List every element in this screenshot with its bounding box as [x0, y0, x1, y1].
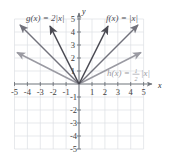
x-tick-label: -3 [37, 87, 44, 97]
x-axis-label: x [157, 81, 162, 90]
y-tick-label: 3 [71, 40, 75, 50]
function-label-h-prefix: h(x) = [107, 68, 130, 78]
y-tick-label: -4 [70, 131, 78, 141]
y-tick-label: -2 [70, 105, 77, 115]
curve-h-left-ray [17, 53, 79, 85]
y-tick-label: -5 [70, 144, 77, 154]
y-tick-label: -1 [70, 92, 77, 102]
h-fraction-denominator: 2 [135, 76, 138, 82]
function-label-f: f(x) = |x| [106, 13, 138, 23]
y-axis-label: y [81, 7, 86, 16]
y-tick-label: -3 [70, 118, 77, 128]
x-tick-label: -2 [50, 87, 57, 97]
x-tick-label: -4 [24, 87, 32, 97]
x-tick-label: -5 [11, 87, 18, 97]
curve-g-right-ray [79, 26, 108, 84]
function-label-g: g(x) = 2|x| [26, 13, 65, 23]
y-tick-label: 5 [71, 14, 75, 24]
coordinate-plane-svg: -5 -4 -3 -2 -1 1 2 3 4 5 5 4 3 2 1 -1 -2… [0, 0, 174, 165]
x-tick-label: -1 [63, 87, 70, 97]
x-tick-label: 5 [141, 87, 145, 97]
x-tick-label: 1 [90, 87, 94, 97]
x-tick-label: 2 [103, 87, 107, 97]
y-tick-label: 2 [71, 53, 75, 63]
x-tick-labels-positive: 1 2 3 4 5 [90, 87, 146, 97]
x-tick-label: 3 [116, 87, 120, 97]
x-tick-label: 4 [129, 87, 134, 97]
h-fraction-numerator: 1 [135, 68, 138, 74]
y-tick-label: 1 [71, 66, 75, 76]
x-tick-labels-negative: -5 -4 -3 -2 -1 [11, 87, 70, 97]
function-label-h-suffix: |x| [141, 68, 150, 78]
graph-figure: -5 -4 -3 -2 -1 1 2 3 4 5 5 4 3 2 1 -1 -2… [0, 0, 174, 165]
y-tick-labels-negative: -1 -2 -3 -4 -5 [70, 92, 78, 154]
